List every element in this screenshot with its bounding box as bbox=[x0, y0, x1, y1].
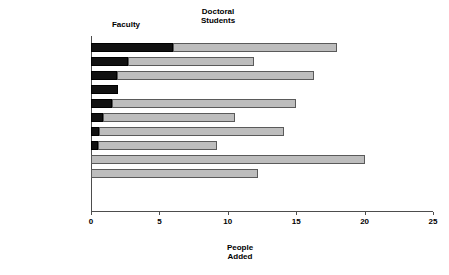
bar-segment-doctoral bbox=[173, 43, 337, 52]
legend-label-faculty: Faculty bbox=[96, 20, 156, 29]
plot-area: MathematicsPhysicsPsychologyElec. Engr.C… bbox=[91, 36, 433, 212]
x-tick-label: 5 bbox=[144, 217, 174, 226]
bar-segment-faculty bbox=[91, 43, 173, 52]
x-tick-label: 25 bbox=[418, 217, 448, 226]
bar-segment-doctoral bbox=[91, 155, 365, 164]
bar-row: Chemistry bbox=[91, 97, 433, 111]
bar-segment-faculty bbox=[91, 113, 103, 122]
legend-label-doctoral-students: Doctoral Students bbox=[188, 7, 248, 25]
bar-segment-doctoral bbox=[128, 57, 254, 66]
x-tick-mark bbox=[365, 212, 366, 215]
bar-row: Elec. Engr. bbox=[91, 83, 433, 97]
x-tick-label: 15 bbox=[281, 217, 311, 226]
bar-row: Mathematics bbox=[91, 41, 433, 55]
bar-row: Mech. Engr. bbox=[91, 181, 433, 195]
bar-segment-faculty bbox=[91, 141, 98, 150]
bar-segment-faculty bbox=[91, 127, 99, 136]
x-tick-mark bbox=[296, 212, 297, 215]
bar-segment-doctoral bbox=[99, 127, 284, 136]
x-tick-mark bbox=[159, 212, 160, 215]
bar-row: Psychology bbox=[91, 69, 433, 83]
bar-segment-faculty bbox=[91, 85, 118, 94]
bar-row: Biology bbox=[91, 153, 433, 167]
x-axis-title: People Added bbox=[200, 243, 280, 261]
bar-row: Civil Engr bbox=[91, 139, 433, 153]
bar-chart: Faculty Doctoral Students MathematicsPhy… bbox=[0, 0, 449, 275]
bar-row: Geosciences bbox=[91, 167, 433, 181]
x-tick-label: 20 bbox=[350, 217, 380, 226]
x-tick-mark bbox=[228, 212, 229, 215]
bar-segment-faculty bbox=[91, 99, 112, 108]
x-tick-mark bbox=[91, 212, 92, 215]
bar-segment-faculty bbox=[91, 57, 128, 66]
x-tick-label: 10 bbox=[213, 217, 243, 226]
bar-segment-doctoral bbox=[91, 169, 258, 178]
bar-row: Computer Science bbox=[91, 111, 433, 125]
x-tick-label: 0 bbox=[76, 217, 106, 226]
bar-row: Physics bbox=[91, 55, 433, 69]
bar-segment-faculty bbox=[91, 71, 117, 80]
bar-segment-doctoral bbox=[98, 141, 217, 150]
bar-segment-doctoral bbox=[103, 113, 234, 122]
bar-row: Economics bbox=[91, 125, 433, 139]
bar-row: Chem. Engr bbox=[91, 195, 433, 209]
bar-segment-doctoral bbox=[117, 71, 314, 80]
bar-segment-doctoral bbox=[112, 99, 297, 108]
x-axis-line bbox=[91, 211, 433, 212]
x-tick-mark bbox=[433, 212, 434, 215]
